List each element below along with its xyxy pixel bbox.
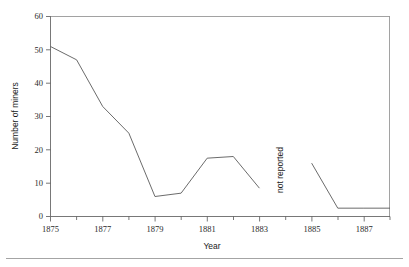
x-axis: 1875 1877 1879 1881 1883 1885 1887 Year	[42, 217, 390, 252]
data-line-segment-reported-late	[312, 163, 390, 208]
y-tick-label-0: 0	[39, 211, 43, 221]
chart-figure: 0 10 20 30 40 50 60 Number of miners	[0, 0, 409, 267]
y-axis-title: Number of miners	[10, 82, 20, 150]
data-line-segment-reported-early	[51, 47, 260, 197]
x-tick-label-1877: 1877	[94, 224, 111, 234]
y-tick-label-10: 10	[35, 178, 44, 188]
x-tick-label-1887: 1887	[356, 224, 373, 234]
y-tick-label-40: 40	[35, 78, 44, 88]
data-series-miners	[51, 47, 391, 209]
y-tick-label-60: 60	[35, 11, 44, 21]
x-tick-label-1883: 1883	[251, 224, 268, 234]
y-tick-label-20: 20	[35, 145, 44, 155]
x-tick-label-1879: 1879	[147, 224, 164, 234]
not-reported-annotation: not reported	[275, 147, 285, 193]
line-chart: 0 10 20 30 40 50 60 Number of miners	[0, 0, 409, 267]
y-tick-label-50: 50	[35, 45, 44, 55]
x-tick-label-1875: 1875	[42, 224, 59, 234]
y-tick-label-30: 30	[35, 111, 44, 121]
y-axis: 0 10 20 30 40 50 60 Number of miners	[10, 11, 51, 221]
x-tick-label-1881: 1881	[199, 224, 216, 234]
x-tick-label-1885: 1885	[303, 224, 320, 234]
x-axis-title: Year	[203, 241, 220, 251]
plot-frame	[50, 17, 390, 217]
